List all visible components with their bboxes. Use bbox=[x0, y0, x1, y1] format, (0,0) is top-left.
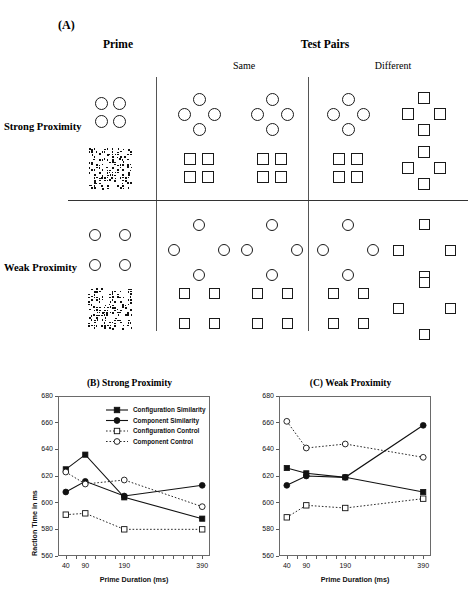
weak-same-a-squares-el-3 bbox=[209, 318, 220, 329]
weak-diff-a-squares-el-3 bbox=[358, 318, 369, 329]
strong-same-b-circles-el-3 bbox=[266, 123, 279, 136]
weak-prime-circles-el-3 bbox=[119, 259, 131, 271]
strong-diff-a-squares-el-0 bbox=[333, 153, 345, 165]
data-point-s3-0 bbox=[63, 469, 69, 475]
weak-same-b-squares-el-3 bbox=[282, 318, 293, 329]
strong-diff-a-circles-el-1 bbox=[327, 108, 340, 121]
weak-same-a-circles-el-2 bbox=[218, 244, 230, 256]
strong-same-a-squares-el-3 bbox=[202, 171, 214, 183]
data-point-s2-2 bbox=[343, 505, 348, 510]
weak-same-a-squares-el-1 bbox=[209, 288, 220, 299]
weak-same-b-squares-el-0 bbox=[252, 288, 263, 299]
strong-diff-b-squares-el-3 bbox=[418, 124, 430, 136]
strong-diff-a-squares-el-2 bbox=[333, 171, 345, 183]
data-point-s3-2 bbox=[121, 477, 127, 483]
data-point-s1-1 bbox=[303, 473, 309, 479]
strong-same-b-circles-el-2 bbox=[281, 108, 294, 121]
chart-b-strong-proximity: (B) Strong Proximity 5605806006206406606… bbox=[22, 378, 237, 611]
data-point-s2-3 bbox=[421, 496, 426, 501]
strong-same-a-squares-el-2 bbox=[184, 171, 196, 183]
data-point-s3-1 bbox=[82, 481, 88, 487]
data-point-s1-3 bbox=[199, 482, 205, 488]
data-point-s3-2 bbox=[342, 441, 348, 447]
data-point-s3-1 bbox=[303, 445, 309, 451]
weak-diff-b-squares-el-0 bbox=[419, 219, 430, 230]
weak-prime-dot-mask bbox=[88, 288, 132, 328]
weak-same-a-squares-el-2 bbox=[179, 318, 190, 329]
weak-diff-a-squares-el-0 bbox=[328, 288, 339, 299]
strong-same-a-squares-el-1 bbox=[202, 153, 214, 165]
strong-same-b-circles-el-1 bbox=[251, 108, 264, 121]
weak-same-a-circles-el-1 bbox=[168, 244, 180, 256]
weak-prime-circles-el-0 bbox=[89, 229, 101, 241]
strong-same-a-circles-el-0 bbox=[193, 93, 206, 106]
legend-label-1: Component Similarity bbox=[133, 417, 199, 424]
weak-diff-b-squares-el-2 bbox=[445, 245, 456, 256]
strong-diff-b-squares-el-0 bbox=[418, 146, 430, 158]
weak-prime-circles-el-1 bbox=[119, 229, 131, 241]
strong-diff-b-squares-el-2 bbox=[434, 108, 446, 120]
data-point-s1-2 bbox=[121, 493, 127, 499]
weak-same-b-circles-el-1 bbox=[241, 244, 253, 256]
strong-diff-a-circles-el-2 bbox=[357, 108, 370, 121]
data-point-s0-0 bbox=[284, 465, 289, 470]
data-point-s3-0 bbox=[284, 418, 290, 424]
data-point-s2-1 bbox=[83, 511, 88, 516]
legend-label-3: Component Control bbox=[133, 438, 193, 445]
weak-diff-a-circles-el-2 bbox=[367, 244, 379, 256]
strong-prime-circles-el-0 bbox=[95, 97, 108, 110]
strong-diff-a-circles-el-3 bbox=[342, 123, 355, 136]
figure-root: (A) Prime Test Pairs Same Different Stro… bbox=[0, 0, 475, 611]
weak-diff-a-circles-el-1 bbox=[317, 244, 329, 256]
panel-a-stimuli: (A) Prime Test Pairs Same Different Stro… bbox=[0, 0, 475, 350]
data-point-s0-3 bbox=[200, 516, 205, 521]
strong-diff-b-squares-el-2 bbox=[434, 162, 446, 174]
weak-same-b-circles-el-3 bbox=[266, 269, 278, 281]
weak-diff-a-squares-el-2 bbox=[328, 318, 339, 329]
series-line-3 bbox=[66, 472, 202, 507]
data-point-s3-3 bbox=[420, 454, 426, 460]
strong-same-a-squares-el-0 bbox=[184, 153, 196, 165]
strong-diff-a-squares-el-1 bbox=[351, 153, 363, 165]
strong-prime-dot-mask bbox=[88, 148, 132, 188]
weak-same-b-squares-el-2 bbox=[252, 318, 263, 329]
data-point-s2-0 bbox=[63, 512, 68, 517]
strong-diff-a-circles-el-0 bbox=[342, 93, 355, 106]
strong-same-a-circles-el-3 bbox=[193, 123, 206, 136]
data-point-s1-3 bbox=[420, 422, 426, 428]
weak-same-a-circles-el-3 bbox=[193, 269, 205, 281]
weak-same-a-squares-el-0 bbox=[179, 288, 190, 299]
weak-diff-b-squares-el-1 bbox=[393, 245, 404, 256]
weak-diff-a-squares-el-1 bbox=[358, 288, 369, 299]
weak-diff-b-squares-el-3 bbox=[419, 329, 430, 340]
data-point-s2-2 bbox=[122, 527, 127, 532]
data-point-s3-3 bbox=[199, 504, 205, 510]
legend-label-2: Configuration Control bbox=[133, 427, 199, 434]
strong-same-b-squares-el-0 bbox=[257, 153, 269, 165]
strong-same-b-squares-el-2 bbox=[257, 171, 269, 183]
weak-diff-a-circles-el-3 bbox=[342, 269, 354, 281]
legend-marker-3 bbox=[114, 439, 120, 445]
data-point-s1-2 bbox=[342, 474, 348, 480]
data-point-s2-3 bbox=[200, 527, 205, 532]
weak-diff-b-squares-el-0 bbox=[419, 277, 430, 288]
strong-same-b-squares-el-3 bbox=[275, 171, 287, 183]
legend-marker-1 bbox=[114, 418, 120, 424]
stimulus-layer bbox=[0, 0, 475, 350]
strong-same-a-circles-el-2 bbox=[208, 108, 221, 121]
weak-diff-b-squares-el-2 bbox=[445, 303, 456, 314]
strong-same-b-squares-el-1 bbox=[275, 153, 287, 165]
strong-diff-b-squares-el-3 bbox=[418, 178, 430, 190]
data-point-s1-0 bbox=[63, 489, 69, 495]
strong-prime-circles-el-2 bbox=[95, 115, 108, 128]
legend-marker-0 bbox=[114, 407, 119, 412]
weak-prime-circles-el-2 bbox=[89, 259, 101, 271]
data-point-s0-1 bbox=[83, 452, 88, 457]
strong-diff-b-squares-el-1 bbox=[402, 108, 414, 120]
data-point-s0-3 bbox=[421, 489, 426, 494]
data-point-s2-0 bbox=[284, 515, 289, 520]
strong-same-b-circles-el-0 bbox=[266, 93, 279, 106]
data-point-s1-0 bbox=[284, 482, 290, 488]
strong-prime-circles-el-3 bbox=[113, 115, 126, 128]
weak-diff-b-squares-el-1 bbox=[393, 303, 404, 314]
